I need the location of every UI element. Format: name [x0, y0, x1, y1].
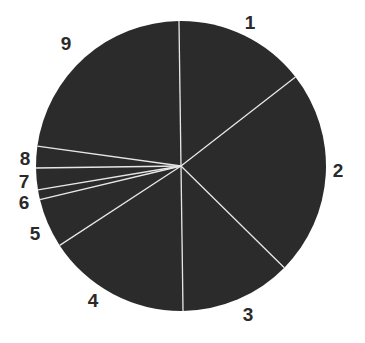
slice-label-2: 2 [333, 160, 344, 181]
slice-label-6: 6 [19, 192, 30, 213]
slice-label-4: 4 [88, 290, 99, 311]
slice-label-8: 8 [20, 148, 31, 169]
slice-label-5: 5 [30, 223, 41, 244]
pie-chart: 123456789 [0, 0, 365, 343]
slice-label-3: 3 [243, 304, 254, 325]
pie-slice-9 [37, 21, 181, 166]
slice-label-1: 1 [245, 12, 256, 33]
slice-label-9: 9 [61, 33, 72, 54]
slice-label-7: 7 [19, 171, 30, 192]
